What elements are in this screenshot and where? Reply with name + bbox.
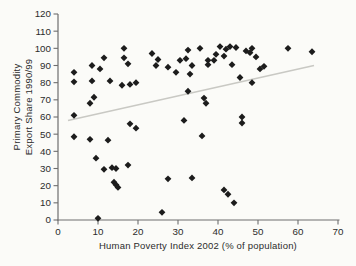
data-point [221,187,228,194]
data-point [71,78,78,85]
data-point [71,112,78,119]
data-point [121,45,128,52]
data-point [187,71,194,78]
data-point [309,48,316,55]
y-tick-label: 70 [40,94,51,105]
y-tick-label: 60 [40,111,51,122]
y-axis-title-line2: Export Share 1990/99 [23,22,35,192]
data-point [177,57,184,64]
x-tick-label: 60 [293,226,304,237]
data-point [87,100,94,107]
data-point [95,215,102,222]
data-point [121,54,128,61]
x-tick-label: 0 [55,226,61,237]
data-point [71,69,78,76]
data-point [239,120,246,127]
y-tick-label: 20 [40,180,51,191]
y-tick-label: 0 [46,214,52,225]
y-tick-label: 120 [35,8,52,19]
data-point [101,166,108,173]
x-axis-title: Human Poverty Index 2002 (% of populatio… [48,240,348,251]
data-point [107,78,114,85]
y-tick-label: 100 [35,43,52,54]
data-point [183,55,190,62]
data-point [155,56,162,63]
y-tick-label: 30 [40,163,51,174]
data-point [133,125,140,132]
data-point [217,43,224,50]
data-point [91,94,98,101]
data-point [239,114,246,121]
data-point [149,50,156,57]
data-point [189,175,196,182]
data-point [71,133,78,140]
data-point [127,120,134,127]
data-point [221,53,228,60]
scatter-figure: 0102030405060708090100110120010203040506… [0,0,356,266]
data-point [125,162,132,169]
y-axis-title-line1: Primary Commodity [11,22,23,192]
data-point [89,62,96,69]
data-point [165,64,172,71]
data-point [211,57,218,64]
x-tick-label: 40 [213,226,224,237]
data-point [205,61,212,68]
data-point [197,45,204,52]
y-tick-label: 40 [40,146,51,157]
data-point [237,74,244,81]
y-tick-label: 90 [40,60,51,71]
data-point [231,199,238,206]
y-tick-label: 80 [40,77,51,88]
data-point [173,69,180,76]
data-point [229,61,236,68]
data-point [253,54,260,61]
x-tick-label: 30 [173,226,184,237]
data-point [89,78,96,85]
x-tick-label: 10 [93,226,104,237]
data-point [125,60,132,67]
y-tick-label: 50 [40,129,51,140]
data-point [189,62,196,69]
data-point [133,79,140,86]
data-point [185,47,192,54]
data-point [105,137,112,144]
data-point [213,51,220,58]
x-tick-label: 70 [333,226,344,237]
data-point [225,191,232,198]
y-axis-title: Primary Commodity Export Share 1990/99 [11,22,35,192]
x-tick-label: 50 [253,226,264,237]
x-tick-label: 20 [133,226,144,237]
data-point [87,136,94,143]
data-point [181,117,188,124]
data-point [119,82,126,89]
data-point [93,155,100,162]
data-point [159,209,166,216]
y-tick-label: 110 [35,26,51,37]
data-point [97,66,104,73]
data-point [199,132,206,139]
data-point [101,54,108,61]
plot-area: 0102030405060708090100110120010203040506… [0,0,356,266]
data-point [285,45,292,52]
data-point [127,81,134,88]
y-tick-label: 10 [40,197,51,208]
data-point [233,44,240,51]
data-point [165,175,172,182]
data-point [153,62,160,69]
